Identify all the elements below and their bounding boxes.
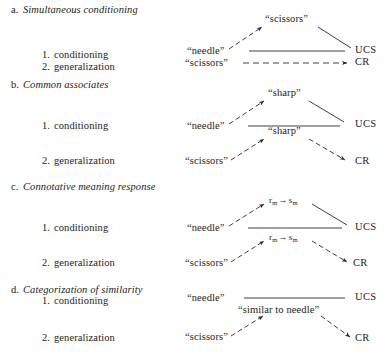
section-letter-a: a.: [11, 5, 18, 16]
node-source-c1: “needle”: [187, 223, 225, 234]
node-source-b2: “scissors”: [185, 156, 228, 167]
line-b-gen-down: [309, 139, 345, 160]
section-a-lines: [229, 27, 351, 63]
node-apex-d: “similar to needle”: [238, 305, 319, 316]
node-target-b1: UCS: [355, 119, 376, 130]
section-letter-d: d.: [11, 285, 19, 296]
line-b-gen-up: [231, 139, 264, 160]
section-title-a: Simultaneous conditioning: [23, 5, 138, 16]
conditioning-generalization-figure: a. Simultaneous conditioning 1. conditio…: [0, 0, 390, 355]
node-apex-c2-mediator: rm→sm: [269, 233, 298, 242]
step-label-c2: generalization: [54, 258, 115, 269]
node-source-c2: “scissors”: [185, 258, 228, 269]
node-target-a2: CR: [355, 57, 370, 68]
node-target-b2: CR: [355, 156, 370, 167]
section-title-d: Categorization of similarity: [23, 285, 142, 296]
line-c-gen-down: [312, 241, 347, 262]
step-number-d2: 2.: [42, 333, 50, 344]
step-number-c1: 1.: [42, 223, 50, 234]
step-label-c1: conditioning: [54, 223, 108, 234]
step-label-b2: generalization: [54, 156, 115, 167]
node-source-a2: “scissors”: [185, 58, 228, 69]
section-title-b: Common associates: [23, 80, 108, 91]
mediator-c2-s-sub: m: [292, 236, 297, 243]
mediator-c2-r-sub: m: [272, 236, 277, 243]
node-target-c1: UCS: [355, 222, 376, 233]
mediator-c1-arrow: →: [278, 195, 289, 205]
step-label-d2: generalization: [54, 333, 115, 344]
step-number-a1: 1.: [42, 50, 50, 61]
node-apex-b2: “sharp”: [268, 126, 301, 137]
mediator-c1-s-sub: m: [292, 199, 297, 206]
section-letter-c: c.: [11, 182, 18, 193]
node-target-d2: CR: [355, 333, 370, 344]
node-source-d1: “needle”: [187, 293, 225, 304]
mediator-c2-arrow: →: [278, 232, 289, 242]
step-label-d1: conditioning: [54, 296, 108, 307]
node-apex-c1-mediator: rm→sm: [269, 196, 298, 205]
step-label-a2: generalization: [54, 62, 115, 73]
line-b-cond-down: [309, 101, 344, 122]
node-source-a1: “needle”: [187, 46, 225, 57]
step-number-a2: 2.: [42, 62, 50, 73]
node-target-c2: CR: [353, 258, 368, 269]
node-target-d1: UCS: [355, 292, 376, 303]
step-number-c2: 2.: [42, 258, 50, 269]
step-label-a1: conditioning: [54, 50, 108, 61]
step-number-b2: 2.: [42, 156, 50, 167]
line-c-cond-down: [312, 204, 347, 225]
node-source-b1: “needle”: [187, 121, 225, 132]
line-c-cond-up: [229, 204, 264, 226]
step-label-b1: conditioning: [54, 121, 108, 132]
step-number-b1: 1.: [42, 121, 50, 132]
line-d-gen-up: [231, 316, 263, 336]
node-apex-a: “scissors”: [265, 14, 308, 25]
section-letter-b: b.: [11, 80, 19, 91]
node-apex-b1: “sharp”: [268, 88, 301, 99]
line-a-cond-up: [229, 27, 262, 49]
node-target-a1: UCS: [355, 45, 376, 56]
line-a-cond-down: [318, 27, 351, 48]
line-d-gen-down: [321, 316, 350, 337]
line-b-cond-up: [229, 101, 264, 124]
step-number-d1: 1.: [42, 296, 50, 307]
line-c-gen-up: [231, 241, 264, 262]
node-source-d2: “scissors”: [185, 332, 228, 343]
mediator-c1-r-sub: m: [272, 199, 277, 206]
section-title-c: Connotative meaning response: [23, 182, 155, 193]
